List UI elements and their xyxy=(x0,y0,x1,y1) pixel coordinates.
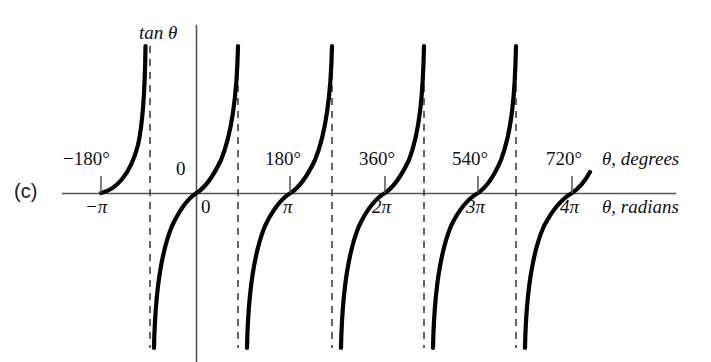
degree-label-540: 540° xyxy=(452,148,488,170)
radian-label-0: 0 xyxy=(201,196,211,218)
degree-label-180: 180° xyxy=(265,148,301,170)
degree-label-neg180: −180° xyxy=(63,148,110,170)
radian-label-4pi: 4π xyxy=(560,196,579,218)
tan-branch-1 xyxy=(101,46,146,193)
degree-label-0: 0 xyxy=(176,158,186,180)
y-axis-title: tan θ xyxy=(139,22,177,44)
x-axis-title-radians: θ, radians xyxy=(602,196,679,218)
tick-group xyxy=(101,176,572,193)
tangent-function-chart xyxy=(0,0,711,362)
radian-label-3pi: 3π xyxy=(466,196,485,218)
degree-label-720: 720° xyxy=(546,148,582,170)
radian-label-2pi: 2π xyxy=(372,196,391,218)
radian-label-pi: π xyxy=(283,196,293,218)
radian-label-negpi: −π xyxy=(85,196,107,218)
x-axis-title-degrees: θ, degrees xyxy=(602,148,679,170)
tan-branch-6 xyxy=(525,172,590,348)
degree-label-360: 360° xyxy=(359,148,395,170)
